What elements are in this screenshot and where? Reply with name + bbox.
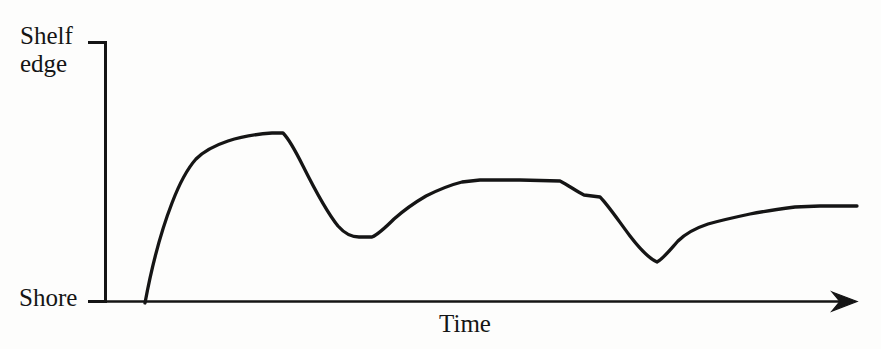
x-axis-label: Time [0, 310, 881, 338]
y-axis-top-label-line2: edge [20, 50, 73, 78]
chart-canvas [0, 0, 881, 349]
chart-figure: Shelf edge Shore Time [0, 0, 881, 349]
y-axis-bottom-label: Shore [19, 284, 77, 312]
y-axis-top-label-line1: Shelf [20, 22, 73, 49]
y-axis-top-label: Shelf edge [20, 22, 73, 78]
data-series-line [145, 133, 857, 303]
